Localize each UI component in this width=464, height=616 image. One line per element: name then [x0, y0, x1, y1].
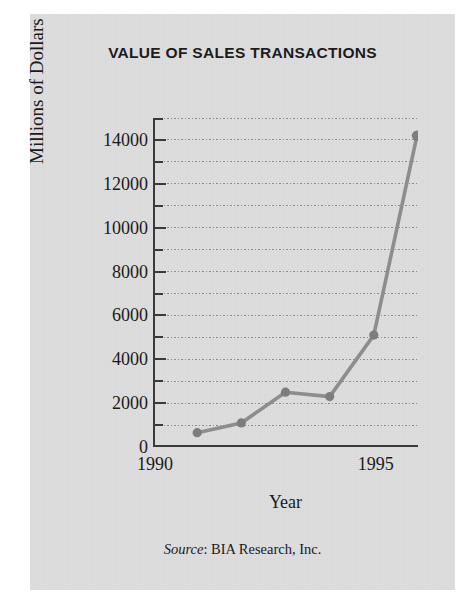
- data-point: [281, 388, 290, 397]
- y-tick-label: 12000: [103, 173, 148, 194]
- data-point: [237, 418, 246, 427]
- x-axis-tick-labels: 1990 1995: [153, 454, 453, 482]
- y-tick-label: 10000: [103, 217, 148, 238]
- x-tick-label: 1995: [358, 454, 394, 475]
- y-tick-label: 6000: [112, 305, 148, 326]
- chart-title: VALUE OF SALES TRANSACTIONS: [30, 44, 455, 62]
- source-separator: :: [203, 541, 211, 557]
- x-axis-title: Year: [153, 492, 418, 513]
- chart-page: VALUE OF SALES TRANSACTIONS Millions of …: [30, 14, 455, 590]
- y-tick-label: 8000: [112, 261, 148, 282]
- y-axis-tick-labels: 0 2000 4000 6000 8000 10000 12000 14000: [63, 118, 148, 447]
- data-point: [193, 428, 202, 437]
- data-point: [412, 130, 418, 140]
- data-line: [197, 136, 417, 433]
- y-axis-title: Millions of Dollars: [26, 0, 48, 164]
- line-chart-svg: [153, 118, 418, 447]
- gridlines: [153, 119, 418, 448]
- source-label: Source: [164, 541, 204, 557]
- y-tick-label: 2000: [112, 393, 148, 414]
- plot-area: [153, 118, 418, 447]
- y-axis-ticks: [154, 119, 166, 447]
- source-text: BIA Research, Inc.: [211, 541, 321, 557]
- y-tick-label: 4000: [112, 349, 148, 370]
- x-tick-label: 1990: [137, 454, 173, 475]
- data-point: [369, 331, 378, 340]
- y-tick-label: 14000: [103, 129, 148, 150]
- data-point: [325, 392, 334, 401]
- source-note: Source: BIA Research, Inc.: [30, 541, 455, 558]
- axis-spines: [153, 118, 418, 447]
